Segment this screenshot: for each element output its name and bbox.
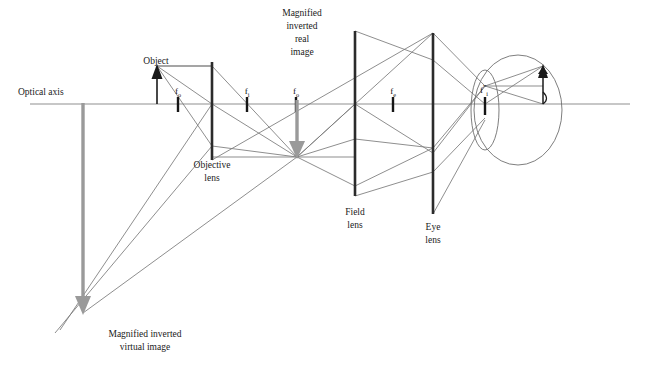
real-image-arrow xyxy=(289,100,305,159)
field-lens-line-2: lens xyxy=(347,220,363,230)
ray-image-to-eyelens-top xyxy=(297,33,433,157)
magnified-real-line-2: inverted xyxy=(286,21,317,31)
objective-lens-line-1: Objective xyxy=(194,160,231,170)
ray-eyelens-top-to-cornea xyxy=(433,33,485,86)
object-label: Object xyxy=(143,56,169,66)
focal-label-f-o-1: fo xyxy=(175,86,181,98)
focal-point-ticks xyxy=(178,97,485,115)
magnified-real-line-3: real xyxy=(295,34,310,44)
retina-image-arrow xyxy=(538,64,548,104)
virtual-image-arrow xyxy=(75,103,91,315)
diagram-canvas: Optical axis Object Magnified inverted r… xyxy=(0,0,656,366)
virtual-image-arrow-head xyxy=(75,296,91,315)
ray-virtual-extension-a xyxy=(83,157,297,313)
ray-eyelens-mid-to-cornea xyxy=(433,86,485,148)
magnified-virtual-line-1: Magnified inverted xyxy=(108,329,181,339)
lens-elements xyxy=(212,31,433,214)
ray-image-to-field-lower xyxy=(297,157,355,186)
magnified-real-line-4: image xyxy=(290,47,313,57)
eye-lens-line-2: lens xyxy=(425,235,441,245)
eye-globe xyxy=(474,55,562,165)
ray-lower-marginal-b xyxy=(355,172,433,196)
magnified-real-image-label: Magnified inverted real image xyxy=(282,8,322,57)
ray-virtual-extension-c xyxy=(55,146,212,333)
ray-field-to-eye-b xyxy=(355,148,433,186)
ray-image-to-field-mid xyxy=(297,139,355,157)
focal-label-f-i-1: fi xyxy=(245,86,250,98)
optical-axis-label: Optical axis xyxy=(18,87,64,97)
objective-lens-line-2: lens xyxy=(204,173,220,183)
ray-objective-edge-to-eyelens xyxy=(212,33,433,160)
field-lens-line-1: Field xyxy=(345,207,365,217)
ray-lower-marginal-a xyxy=(433,120,485,214)
ray-cornea-to-retina-b xyxy=(485,86,543,104)
field-lens-label: Field lens xyxy=(345,207,365,230)
ray-lower-marginal-c xyxy=(433,118,485,172)
eye-lens-line-1: Eye xyxy=(426,222,441,232)
ray-cornea-to-retina-a xyxy=(485,66,543,86)
optical-ray-diagram: Optical axis Object Magnified inverted r… xyxy=(0,0,656,366)
magnified-real-line-1: Magnified xyxy=(282,8,322,18)
eye-lens-label: Eye lens xyxy=(425,222,441,245)
object-arrow xyxy=(152,64,163,104)
focal-label-f-o-2: fo xyxy=(293,86,299,98)
ray-field-to-eye-a xyxy=(355,139,433,148)
objective-lens-label: Objective lens xyxy=(194,160,231,183)
magnified-virtual-line-2: virtual image xyxy=(120,342,170,352)
ray-cornea-axis-to-retina xyxy=(485,66,543,104)
focal-label-f-e: fe xyxy=(390,86,396,98)
magnified-virtual-image-label: Magnified inverted virtual image xyxy=(108,329,181,352)
focal-symbol-labels: fo fi fo fe f″i xyxy=(175,84,488,98)
ray-eye-entry-chief xyxy=(433,60,485,104)
ray-bundle xyxy=(55,31,543,333)
